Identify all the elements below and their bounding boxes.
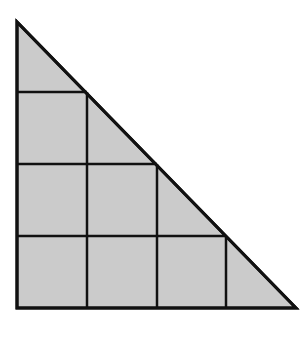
triangle-grid-diagram <box>0 0 303 340</box>
